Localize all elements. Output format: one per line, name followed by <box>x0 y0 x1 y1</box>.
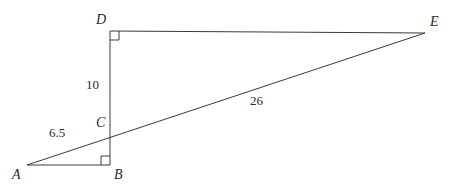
diagram-canvas <box>0 0 451 187</box>
vertex-label-b: B <box>114 168 123 182</box>
segment-DE <box>110 31 425 33</box>
vertex-label-a: A <box>12 168 21 182</box>
vertex-label-c: C <box>96 116 105 130</box>
geometry-diagram: ABCDE106.526 <box>0 0 451 187</box>
measure-AC: 6.5 <box>49 126 65 139</box>
segment-AE <box>27 33 425 165</box>
vertex-label-e: E <box>430 15 439 29</box>
measure-DC: 10 <box>86 78 99 91</box>
segments-group <box>27 31 425 165</box>
vertex-label-d: D <box>96 13 106 27</box>
measure-CE: 26 <box>250 94 263 107</box>
right-angle-at-B <box>101 156 110 165</box>
right-angle-at-D <box>110 31 119 40</box>
